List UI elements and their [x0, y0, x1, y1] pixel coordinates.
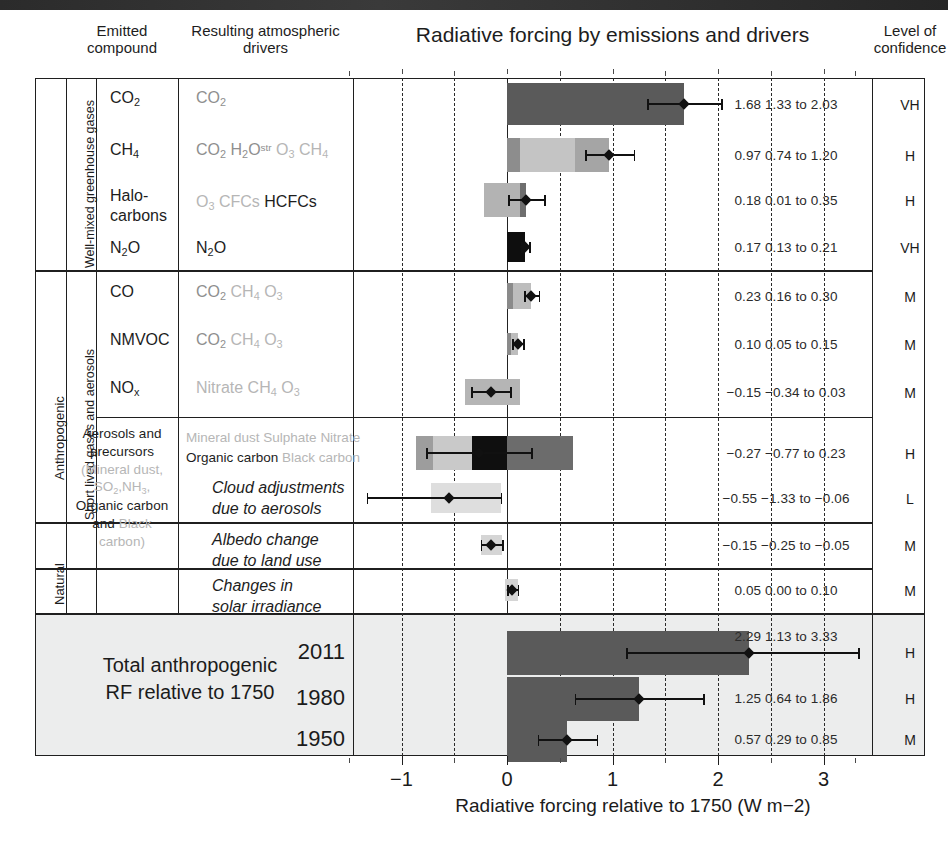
x-tick-top-0	[507, 69, 508, 74]
side-label-anthropogenic: Anthropogenic	[52, 396, 67, 480]
x-minor-tick-neg1p5-1	[349, 71, 350, 76]
value-text-cloud: −0.55 −1.33 to −0.06	[701, 491, 871, 506]
x-tick-label-2: 2	[698, 768, 738, 791]
x-minor-tick-0p5-1	[560, 71, 561, 76]
cloud-uncertainty-bar	[367, 497, 501, 499]
ipcc-radiative-forcing-figure: Emitted compound Resulting atmospheric d…	[0, 0, 948, 844]
drivers-co2: CO2	[196, 88, 226, 109]
emitted-ch4: CH4	[110, 140, 139, 161]
total-year-label-1980: 1980	[275, 685, 345, 711]
column-header-level-of-confidence: Level of confidence	[872, 22, 948, 57]
total-2011-cap-high	[858, 648, 860, 659]
confidence-total-1950: M	[872, 732, 948, 748]
confidence-nox: M	[872, 385, 948, 401]
x-minor-tick-1p5-1	[665, 71, 666, 76]
total-1950-cap-low	[538, 735, 540, 746]
x-minor-tick-neg0p5-0	[454, 758, 455, 763]
drivers-cloud-adjustments: Cloud adjustmentsdue to aerosols	[212, 478, 345, 520]
x-minor-tick-neg1p5-0	[349, 758, 350, 763]
gridline-3	[824, 78, 825, 756]
ch4-cap-low	[585, 150, 587, 161]
confidence-halocarbons: H	[872, 193, 948, 209]
albedo-cap-high	[502, 540, 504, 551]
confidence-solar: M	[872, 583, 948, 599]
drivers-aerosols: Mineral dust Sulphate Nitrate Organic ca…	[186, 428, 360, 467]
drivers-n2o: N2O	[196, 238, 226, 259]
side-label-well-mixed-ghg: Well-mixed greenhouse gases	[83, 100, 97, 268]
x-minor-tick-1p5-0	[665, 758, 666, 763]
figure-title: Radiative forcing by emissions and drive…	[353, 23, 872, 47]
x-minor-tick-0p5-0	[560, 758, 561, 763]
gridline-neg1	[402, 78, 403, 756]
x-tick--1	[402, 756, 403, 765]
halocarbons-cap-high	[544, 195, 546, 206]
value-text-total-1950: 0.57 0.29 to 0.85	[701, 732, 871, 747]
x-tick-label--1: −1	[382, 768, 422, 791]
divider-emitted	[178, 78, 179, 613]
co-cap-high	[539, 291, 541, 302]
value-text-nox: −0.15 −0.34 to 0.03	[701, 385, 871, 400]
co2-cap-low	[647, 99, 649, 110]
x-tick-label-0: 0	[487, 768, 527, 791]
emitted-co2: CO2	[110, 88, 140, 109]
x-tick-top--1	[402, 69, 403, 74]
header-emitted-line2: compound	[66, 39, 178, 56]
nox-cap-low	[471, 387, 473, 398]
value-text-total-2011: 2.29 1.13 to 3.33	[701, 629, 871, 644]
value-text-aerosols: −0.27 −0.77 to 0.23	[701, 446, 871, 461]
aerosols-cap-high	[531, 448, 533, 459]
x-tick-1	[613, 756, 614, 765]
value-text-co2: 1.68 1.33 to 2.03	[701, 97, 871, 112]
albedo-cap-low	[481, 540, 483, 551]
solar-cap-high	[518, 585, 520, 596]
confidence-n2o: VH	[872, 240, 948, 256]
total-2011-cap-low	[626, 648, 628, 659]
drivers-ch4: CO2 H2Ostr O3 CH4	[196, 140, 328, 161]
halocarbons-cap-low	[508, 195, 510, 206]
drivers-nmvoc: CO2 CH4 O3	[196, 330, 283, 351]
value-text-nmvoc: 0.10 0.05 to 0.15	[701, 337, 871, 352]
x-tick-top-1	[613, 69, 614, 74]
header-emitted-line1: Emitted	[66, 22, 178, 39]
x-minor-tick-2p5-0	[771, 758, 772, 763]
x-tick-3	[824, 756, 825, 765]
chart-plot-area	[353, 78, 872, 756]
confidence-co2: VH	[872, 97, 948, 113]
gridline-neg0p5	[454, 78, 455, 756]
drivers-halocarbons: O3 CFCs HCFCs	[196, 192, 317, 213]
x-axis-title: Radiative forcing relative to 1750 (W m−…	[353, 795, 913, 817]
column-header-resulting-drivers: Resulting atmospheric drivers	[178, 22, 353, 57]
x-minor-tick-3p3-1	[855, 71, 856, 76]
x-tick-0	[507, 756, 508, 765]
aerosols-cap-low	[426, 448, 428, 459]
value-text-ch4: 0.97 0.74 to 1.20	[701, 148, 871, 163]
header-drivers-line2: drivers	[178, 39, 353, 56]
total-year-label-2011: 2011	[275, 639, 345, 665]
cloud-cap-high	[501, 493, 503, 504]
value-text-co: 0.23 0.16 to 0.30	[701, 289, 871, 304]
confidence-total-1980: H	[872, 691, 948, 707]
total-1950-cap-high	[597, 735, 599, 746]
bar-ch4-segment-0	[507, 138, 520, 172]
confidence-nmvoc: M	[872, 337, 948, 353]
x-axis-title-text: Radiative forcing relative to 1750 (W m−…	[455, 795, 810, 816]
header-drivers-line1: Resulting atmospheric	[178, 22, 353, 39]
confidence-total-2011: H	[872, 645, 948, 661]
confidence-ch4: H	[872, 148, 948, 164]
value-text-total-1980: 1.25 0.64 to 1.86	[701, 691, 871, 706]
emitted-nmvoc: NMVOC	[110, 330, 170, 349]
emitted-co: CO	[110, 282, 134, 301]
emitted-n2o: N2O	[110, 238, 140, 259]
drivers-co: CO2 CH4 O3	[196, 282, 283, 303]
side-label-natural: Natural	[52, 563, 67, 605]
drivers-solar-irradiance: Changes insolar irradiance	[212, 576, 321, 618]
value-text-halocarbons: 0.18 0.01 to 0.35	[701, 193, 871, 208]
cloud-cap-low	[367, 493, 369, 504]
emitted-nox: NOx	[110, 378, 139, 399]
value-text-n2o: 0.17 0.13 to 0.21	[701, 240, 871, 255]
value-text-solar: 0.05 0.00 to 0.10	[701, 583, 871, 598]
bar-ch4-segment-1	[520, 138, 575, 172]
confidence-albedo: M	[872, 538, 948, 554]
drivers-nox: Nitrate CH4 O3	[196, 378, 300, 399]
x-minor-tick-3p3-0	[855, 758, 856, 763]
